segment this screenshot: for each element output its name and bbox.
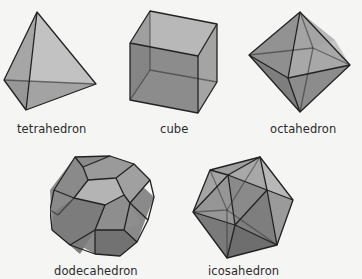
dodecahedron-figure [50,150,162,260]
icosahedron-figure [185,150,297,262]
tetrahedron-figure [0,0,110,120]
cube-label: cube [160,122,188,136]
tetrahedron-label: tetrahedron [17,122,86,136]
cube-figure [120,0,230,120]
octahedron-figure [240,0,362,120]
octahedron-label: octahedron [270,122,336,136]
dodecahedron-label: dodecahedron [54,264,138,278]
icosahedron-label: icosahedron [208,264,279,278]
